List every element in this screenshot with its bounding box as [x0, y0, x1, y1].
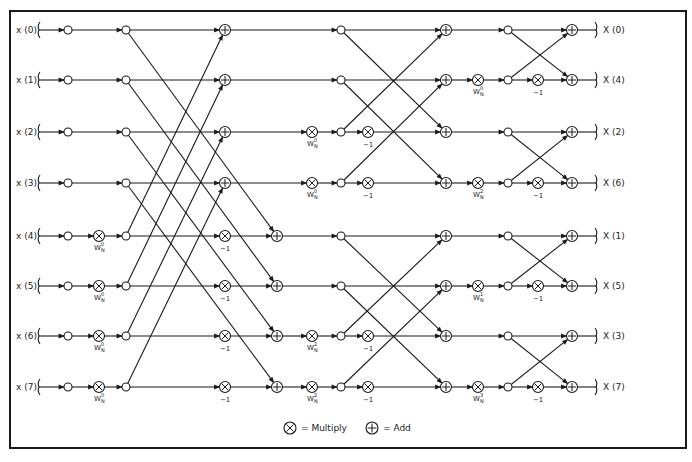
add-node-icon [567, 382, 578, 393]
branch-node [504, 128, 512, 136]
add-node-icon [220, 178, 231, 189]
signal-wire [508, 336, 568, 384]
minus-one-label: −1 [533, 396, 543, 404]
signal-wire [508, 239, 568, 286]
signal-wire [508, 339, 568, 387]
multiply-node-icon [94, 231, 105, 242]
multiply-node-icon [363, 382, 374, 393]
branch-node [64, 26, 72, 34]
input-label: x (6) [16, 331, 37, 341]
branch-node [122, 179, 130, 187]
branch-node [122, 332, 130, 340]
add-node-icon [441, 331, 452, 342]
twiddle-factor-label: W [307, 395, 314, 403]
multiply-node-icon [220, 331, 231, 342]
multiply-node-icon [220, 281, 231, 292]
twiddle-subscript: N [314, 398, 318, 404]
add-node-icon [567, 75, 578, 86]
twiddle-subscript: N [480, 91, 484, 97]
signal-wire [126, 30, 274, 232]
multiply-node-icon [307, 382, 318, 393]
twiddle-factor-label: W [94, 294, 101, 302]
output-label: X (1) [603, 231, 625, 241]
signal-wire [508, 135, 568, 183]
branch-node [337, 383, 345, 391]
branch-node [504, 76, 512, 84]
output-label: X (2) [603, 127, 625, 137]
twiddle-subscript: N [101, 347, 105, 353]
twiddle-subscript: N [314, 143, 318, 149]
branch-node [64, 128, 72, 136]
multiply-node-icon [473, 75, 484, 86]
minus-one-label: −1 [220, 345, 230, 353]
signal-wire [508, 132, 568, 180]
output-label: X (4) [603, 75, 625, 85]
branch-node [64, 383, 72, 391]
multiply-node-icon [307, 331, 318, 342]
branch-node [122, 232, 130, 240]
add-node-icon [441, 127, 452, 138]
signal-wire [126, 188, 223, 387]
minus-one-label: −1 [533, 192, 543, 200]
add-node-icon [272, 281, 283, 292]
add-node-icon [567, 231, 578, 242]
signal-wire [341, 84, 442, 183]
twiddle-factor-label: W [473, 294, 480, 302]
minus-one-label: −1 [220, 245, 230, 253]
add-node-icon [441, 25, 452, 36]
add-node-icon [220, 127, 231, 138]
add-node-icon [441, 231, 452, 242]
multiply-node-icon [307, 127, 318, 138]
signal-wire [126, 85, 223, 286]
input-label: x (3) [16, 178, 37, 188]
branch-node [337, 282, 345, 290]
twiddle-subscript: N [480, 194, 484, 200]
minus-one-label: −1 [220, 396, 230, 404]
branch-node [122, 383, 130, 391]
branch-node [504, 383, 512, 391]
add-node-icon [441, 178, 452, 189]
branch-node [504, 179, 512, 187]
multiply-node-icon [533, 382, 544, 393]
twiddle-factor-label: W [94, 244, 101, 252]
branch-node [337, 76, 345, 84]
input-label: x (4) [16, 231, 37, 241]
twiddle-factor-label: W [307, 191, 314, 199]
multiply-node-icon [473, 382, 484, 393]
minus-one-label: −1 [533, 295, 543, 303]
signal-wire [508, 30, 568, 77]
multiply-node-icon [220, 231, 231, 242]
input-label: x (2) [16, 127, 37, 137]
twiddle-subscript: N [314, 347, 318, 353]
multiply-node-icon [533, 178, 544, 189]
add-node-icon [441, 382, 452, 393]
add-node-icon [220, 25, 231, 36]
branch-node [64, 282, 72, 290]
twiddle-subscript: N [101, 297, 105, 303]
signal-wire [341, 80, 442, 179]
twiddle-subscript: N [314, 194, 318, 200]
twiddle-subscript: N [101, 398, 105, 404]
multiply-node-icon [363, 178, 374, 189]
multiply-node-icon [473, 178, 484, 189]
branch-node [64, 232, 72, 240]
add-node-icon [441, 75, 452, 86]
branch-node [64, 179, 72, 187]
multiply-legend-label: = Multiply [301, 423, 348, 433]
add-node-icon [220, 75, 231, 86]
minus-one-label: −1 [363, 192, 373, 200]
output-label: X (0) [603, 25, 625, 35]
branch-node [504, 332, 512, 340]
branch-node [337, 179, 345, 187]
twiddle-factor-label: W [307, 344, 314, 352]
branch-node [122, 76, 130, 84]
output-label: X (7) [603, 382, 625, 392]
signal-wire [508, 33, 568, 80]
branch-node [504, 282, 512, 290]
twiddle-subscript: N [480, 398, 484, 404]
add-node-icon [567, 178, 578, 189]
twiddle-factor-label: W [473, 395, 480, 403]
input-label: x (1) [16, 75, 37, 85]
signal-wire [341, 290, 442, 387]
add-node-icon [567, 331, 578, 342]
